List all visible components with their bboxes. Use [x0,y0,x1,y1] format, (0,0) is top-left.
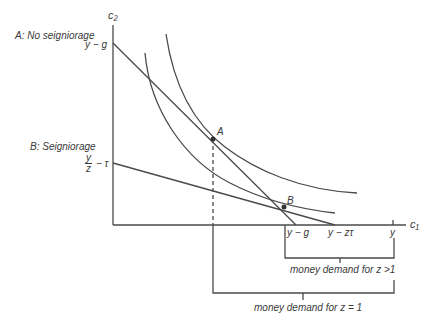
budget-line-a [113,43,296,225]
indifference-curve-high [166,34,357,193]
point-b-label: B [287,196,294,206]
point-a-label: A [217,127,224,137]
bracket-label-z-gt-1: money demand for z >1 [290,265,395,275]
y-intercept-a-label: y − g [85,40,107,50]
x-tick-label-y: y [390,228,395,238]
x-tick-label-a: y − g [287,228,309,238]
y-intercept-b-suffix: − τ [96,159,108,169]
x-tick-label-b: y − zτ [328,228,353,238]
indifference-curve-low [145,53,335,213]
budget-line-b [113,163,335,225]
point-b-marker [282,205,287,210]
panel-label-b: B: Seigniorage [30,142,96,152]
panel-label-a: A: No seigniorage [15,31,95,41]
y-axis-label: c₂ [108,10,118,21]
diagram-canvas [0,0,430,325]
x-axis-label: c₁ [410,219,419,230]
y-intercept-b-fraction: y z [85,153,92,174]
fraction-denominator: z [85,164,92,174]
bracket-label-z-eq-1: money demand for z = 1 [254,303,362,313]
point-a-marker [211,137,216,142]
